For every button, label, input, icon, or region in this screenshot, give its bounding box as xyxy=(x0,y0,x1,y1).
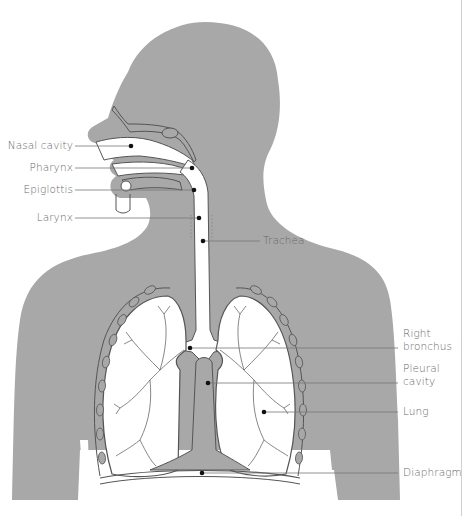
sinus xyxy=(162,128,178,138)
epiglottis-fold xyxy=(121,181,131,191)
label-pleural-cavity-line2: cavity xyxy=(403,375,435,388)
page-edge-divider xyxy=(461,0,462,516)
label-pharynx: Pharynx xyxy=(29,161,73,174)
label-right-bronchus-line1: Right xyxy=(403,327,431,340)
label-diaphragm: Diaphragm xyxy=(403,466,462,479)
body-silhouette xyxy=(0,0,467,516)
label-pleural-cavity-line1: Pleural xyxy=(403,362,440,375)
label-right-bronchus-line2: bronchus xyxy=(403,340,452,353)
respiratory-system-diagram: Nasal cavity Pharynx Epiglottis Larynx T… xyxy=(0,0,467,516)
label-trachea: Trachea xyxy=(263,234,305,247)
label-lung: Lung xyxy=(403,405,429,418)
label-nasal-cavity: Nasal cavity xyxy=(8,139,73,152)
label-epiglottis: Epiglottis xyxy=(24,183,73,196)
label-larynx: Larynx xyxy=(37,211,73,224)
diaphragm-inner xyxy=(100,477,300,485)
